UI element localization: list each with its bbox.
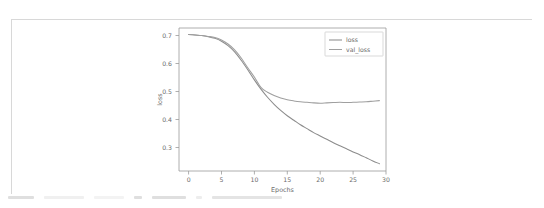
clipped-glyph	[196, 196, 202, 199]
clipped-glyph	[94, 196, 124, 199]
matplotlib-figure: 0.7 0.6 0.5 0.4 0.3 0 5 10 15	[12, 20, 531, 193]
clipped-row	[0, 196, 544, 208]
x-axis-label: Epochs	[271, 186, 295, 194]
chart-card: 0.7 0.6 0.5 0.4 0.3 0 5 10 15	[11, 19, 532, 194]
y-tick-label: 0.3	[162, 144, 172, 151]
clipped-glyph	[212, 196, 282, 199]
chart-legend: loss val_loss	[325, 32, 383, 56]
x-tick-label: 5	[220, 176, 224, 183]
y-tick-label: 0.6	[162, 60, 172, 67]
y-tick-label: 0.4	[162, 116, 172, 123]
y-tick-label: 0.7	[162, 32, 172, 39]
clipped-glyph	[44, 196, 84, 199]
clipped-glyph	[8, 196, 34, 199]
x-tick-label: 20	[316, 176, 324, 183]
legend-label-loss: loss	[346, 36, 358, 43]
loss-curve-chart: 0.7 0.6 0.5 0.4 0.3 0 5 10 15	[12, 20, 533, 195]
clipped-glyph	[152, 196, 186, 199]
clipped-content-strip	[0, 196, 544, 208]
x-tick-label: 0	[187, 176, 191, 183]
legend-label-val-loss: val_loss	[346, 46, 370, 54]
y-axis-label: loss	[156, 93, 164, 106]
figure-background	[12, 20, 533, 195]
x-tick-label: 10	[250, 176, 258, 183]
x-tick-label: 30	[382, 176, 390, 183]
clipped-glyph	[134, 196, 142, 199]
x-tick-label: 25	[349, 176, 357, 183]
x-tick-label: 15	[283, 176, 291, 183]
